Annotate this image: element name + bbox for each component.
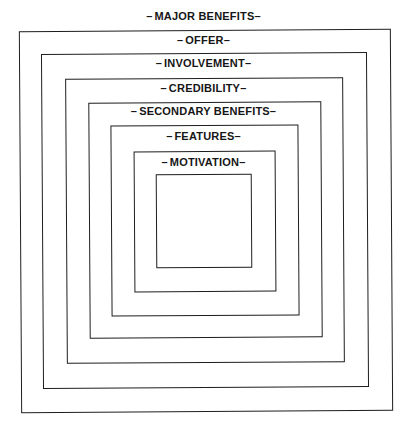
dash-left: – [146, 10, 152, 22]
nested-benefits-diagram: –MAJOR BENEFITS– –OFFER– –INVOLVEMENT– –… [0, 0, 407, 427]
dash-right: – [254, 10, 260, 22]
box-motivation [156, 174, 253, 269]
label-major-benefits: –MAJOR BENEFITS– [0, 10, 407, 22]
